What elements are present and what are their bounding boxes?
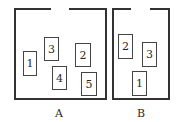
container-a-top-left-wall bbox=[14, 8, 51, 10]
item-number: 1 bbox=[27, 58, 34, 69]
container-b-top-left-wall bbox=[112, 8, 131, 10]
container-a-left-wall bbox=[14, 8, 16, 100]
container-a-bottom-wall bbox=[14, 98, 107, 100]
item-number: 2 bbox=[122, 41, 129, 52]
container-a-item: 5 bbox=[81, 72, 97, 96]
container-b-left-wall bbox=[112, 8, 114, 100]
item-number: 2 bbox=[80, 50, 87, 61]
container-b-item: 1 bbox=[132, 71, 147, 96]
container-b-label: B bbox=[131, 108, 151, 119]
container-a-item: 3 bbox=[44, 37, 59, 61]
container-b-bottom-wall bbox=[112, 98, 170, 100]
enclosure-diagram: 1 3 4 2 5 A 2 3 1 B bbox=[0, 0, 179, 122]
container-a-item: 1 bbox=[23, 51, 37, 76]
container-a-item: 2 bbox=[75, 43, 91, 67]
container-a-top-right-wall bbox=[69, 8, 107, 10]
container-b-right-wall bbox=[168, 8, 170, 100]
container-b-top-right-wall bbox=[150, 8, 170, 10]
item-number: 3 bbox=[146, 49, 153, 60]
item-number: 4 bbox=[56, 73, 63, 84]
item-number: 1 bbox=[136, 78, 143, 89]
item-number: 5 bbox=[86, 79, 93, 90]
container-b-item: 2 bbox=[118, 34, 133, 59]
container-a-label: A bbox=[49, 108, 69, 119]
container-a-item: 4 bbox=[52, 66, 67, 90]
container-a-right-wall bbox=[105, 8, 107, 100]
container-b-item: 3 bbox=[142, 42, 157, 67]
item-number: 3 bbox=[48, 44, 55, 55]
